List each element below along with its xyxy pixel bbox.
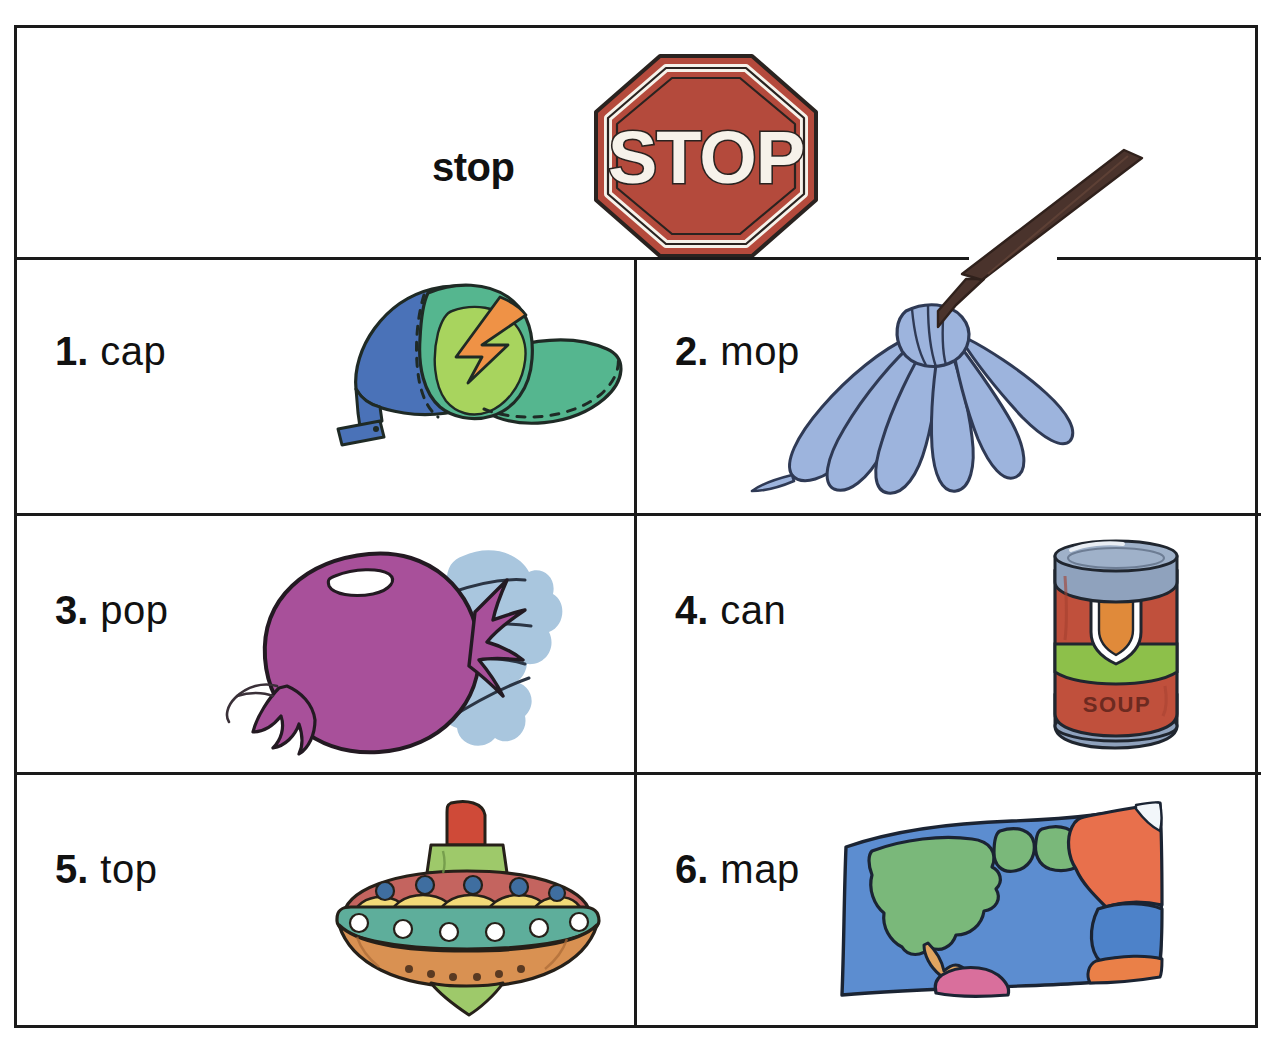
header-row: stop STOP [17,28,1255,257]
cell-5-number: 5. [55,847,88,891]
worksheet-cell-4: 4.can SOUP [637,516,1255,772]
cell-6-word: map [720,847,799,891]
header-word: stop [432,145,514,190]
spinning-top-icon [327,797,607,1017]
soup-can-icon: SOUP [1037,536,1197,756]
cell-3-label: 3.pop [55,588,169,633]
cell-2-number: 2. [675,329,708,373]
world-map-icon [832,795,1172,1015]
cell-6-label: 6.map [675,847,800,892]
cell-6-number: 6. [675,847,708,891]
cell-1-label: 1.cap [55,329,166,374]
worksheet-cell-3: 3.pop [17,516,634,772]
divider-column [634,257,637,1025]
cell-1-word: cap [100,329,166,373]
popping-balloon-icon [207,536,607,766]
cell-3-number: 3. [55,588,88,632]
stop-sign-text: STOP [608,116,804,199]
cell-5-label: 5.top [55,847,157,892]
cell-4-word: can [720,588,786,632]
baseball-cap-icon [332,271,632,471]
cell-3-word: pop [100,588,168,632]
cell-4-label: 4.can [675,588,786,633]
worksheet-table: stop STOP 1.cap [14,25,1258,1028]
worksheet-cell-2: 2.mop [637,257,1255,513]
stop-sign-icon: STOP [590,50,822,262]
mop-icon [722,279,1142,519]
soup-can-label-text: SOUP [1083,692,1151,717]
cell-4-number: 4. [675,588,708,632]
worksheet-page: stop STOP 1.cap [0,0,1275,1046]
cell-1-number: 1. [55,329,88,373]
divider-row2 [17,513,1261,516]
worksheet-cell-6: 6.map [637,775,1255,1025]
worksheet-cell-1: 1.cap [17,257,634,513]
divider-row3 [17,772,1261,775]
worksheet-cell-5: 5.top [17,775,634,1025]
cell-5-word: top [100,847,157,891]
